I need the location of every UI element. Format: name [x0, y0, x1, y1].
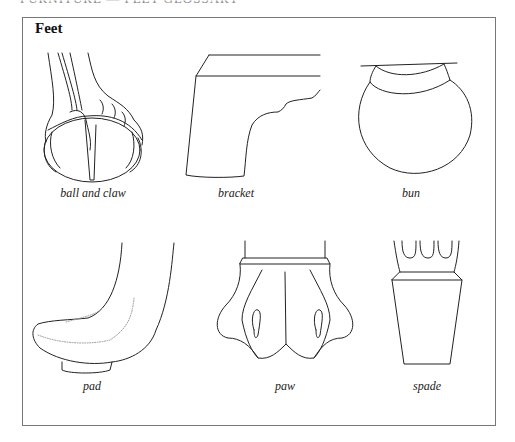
caption-bracket: bracket [176, 186, 296, 201]
caption-pad: pad [32, 379, 152, 394]
ball-and-claw-drawing [44, 53, 143, 182]
caption-bun: bun [351, 186, 471, 201]
caption-ball-and-claw: ball and claw [33, 186, 153, 201]
bracket-drawing [186, 55, 320, 177]
paw-drawing [217, 241, 353, 358]
pad-drawing [33, 243, 174, 373]
spade-drawing [392, 241, 462, 364]
caption-spade: spade [367, 379, 487, 394]
bun-drawing [359, 63, 472, 173]
feet-illustrations [0, 0, 515, 442]
caption-paw: paw [225, 379, 345, 394]
